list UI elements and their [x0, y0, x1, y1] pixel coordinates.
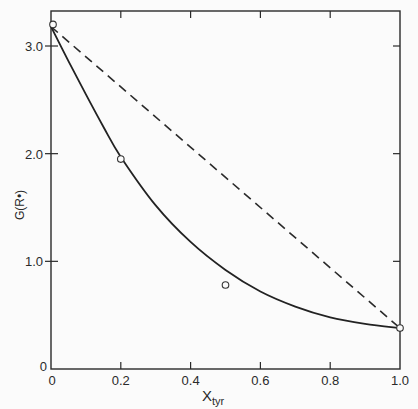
chart: 00.20.40.60.81.001.02.03.0 G(R•) Xtyr: [0, 0, 418, 409]
y-tick-label: 1.0: [25, 254, 43, 269]
x-axis-label: Xtyr: [202, 387, 225, 407]
x-axis-label-main: X: [202, 387, 212, 404]
x-tick-label: 1.0: [391, 373, 409, 388]
plot-frame: [51, 11, 400, 369]
data-point-marker: [118, 156, 125, 163]
data-point-marker: [50, 21, 57, 28]
y-tick-label: 2.0: [25, 147, 43, 162]
x-tick-label: 0: [48, 373, 55, 388]
y-tick-label: 3.0: [25, 39, 43, 54]
x-axis-label-subscript: tyr: [212, 395, 225, 407]
plot-border: [51, 11, 400, 369]
x-tick-label: 0.4: [182, 373, 200, 388]
data-point-marker: [397, 325, 404, 332]
tick-labels: 00.20.40.60.81.001.02.03.0: [25, 39, 409, 388]
x-tick-label: 0.2: [112, 373, 130, 388]
y-tick-label: 0: [40, 359, 47, 374]
data-point-marker: [222, 282, 229, 289]
x-tick-label: 0.8: [321, 373, 339, 388]
x-tick-label: 0.6: [251, 373, 269, 388]
y-axis-label: G(R•): [13, 190, 27, 220]
axis-ticks: [45, 11, 400, 369]
